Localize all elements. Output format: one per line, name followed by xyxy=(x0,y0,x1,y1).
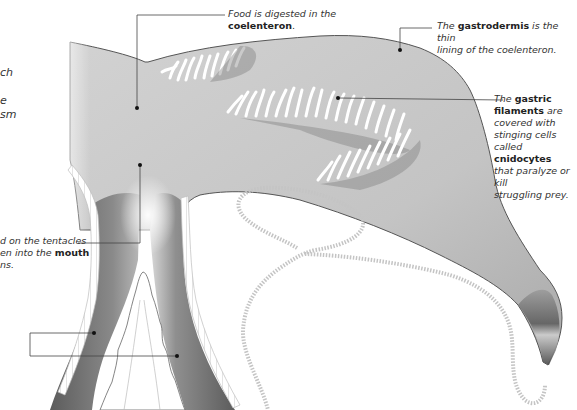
filaments-line2: are xyxy=(547,105,563,116)
anemone-diagram xyxy=(0,0,577,410)
label-left-partial: ch e sm xyxy=(0,66,16,122)
mesentery-cell-loop xyxy=(238,188,363,410)
label-mouth-partial: d on the tentacles en into the mouth ns. xyxy=(0,235,89,271)
coelenteron-suffix: . xyxy=(292,20,295,31)
filaments-term-cnidocytes: cnidocytes xyxy=(494,153,551,164)
dot-mesoglea-1 xyxy=(92,331,96,335)
mesentery-tip xyxy=(518,290,559,365)
dot-filaments xyxy=(336,96,340,100)
mouth-partial-line2: en into the xyxy=(0,247,52,258)
left-partial-line2: e xyxy=(0,94,7,107)
dot-mesoglea-2 xyxy=(175,354,179,358)
filaments-line3: covered with xyxy=(494,117,555,128)
label-gastric-filaments: The gastric filaments are covered with s… xyxy=(494,93,577,201)
label-coelenteron: Food is digested in the coelenteron. xyxy=(228,8,336,32)
filaments-line4: stinging cells xyxy=(494,129,556,140)
filaments-line7: struggling prey. xyxy=(494,189,569,200)
filaments-term-a: gastric xyxy=(515,93,552,104)
filaments-line6: that paralyze or kill xyxy=(494,165,570,188)
filaments-term-b: filaments xyxy=(494,105,544,116)
left-partial-line3: sm xyxy=(0,108,16,121)
gastrodermis-line2: lining of the coelenteron. xyxy=(437,44,557,55)
coelenteron-text: Food is digested in the xyxy=(228,8,336,19)
gastrodermis-term: gastrodermis xyxy=(458,20,529,31)
dot-gastrodermis xyxy=(398,48,402,52)
dot-pharynx xyxy=(138,163,142,167)
dot-coelenteron xyxy=(135,106,139,110)
gastrodermis-pre: The xyxy=(437,20,455,31)
label-gastrodermis: The gastrodermis is the thin lining of t… xyxy=(437,20,577,56)
mouth-term: mouth xyxy=(55,247,90,258)
filaments-pre: The xyxy=(494,93,512,104)
mouth-partial-line1: d on the tentacles xyxy=(0,235,86,246)
filaments-line5: called xyxy=(494,141,522,152)
left-fade xyxy=(50,30,90,260)
mouth-partial-line3: ns. xyxy=(0,259,14,270)
coelenteron-term: coelenteron xyxy=(228,20,292,31)
left-partial-line1: ch xyxy=(0,66,13,79)
